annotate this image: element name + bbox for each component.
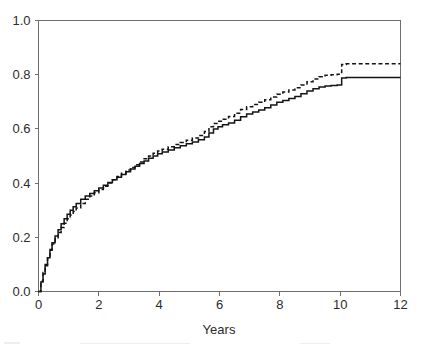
- x-tick-label: 12: [393, 297, 407, 312]
- y-tick-label: 0.0: [12, 284, 30, 299]
- y-tick-label: 1.0: [12, 13, 30, 28]
- chart-background: [0, 0, 421, 349]
- scan-artifact-right: [300, 343, 330, 344]
- x-tick-label: 6: [216, 297, 223, 312]
- y-tick-label: 0.6: [12, 121, 30, 136]
- scan-artifact-left: [4, 342, 20, 344]
- scan-artifact-mid: [80, 343, 190, 344]
- y-tick-label: 0.8: [12, 67, 30, 82]
- x-tick-label: 0: [35, 297, 42, 312]
- x-tick-label: 10: [333, 297, 347, 312]
- x-tick-label: 4: [156, 297, 163, 312]
- y-tick-label: 0.2: [12, 230, 30, 245]
- x-tick-label: 8: [276, 297, 283, 312]
- cumulative-incidence-chart: 0.00.20.40.60.81.0 024681012 Years: [0, 0, 421, 349]
- x-tick-label: 2: [95, 297, 102, 312]
- figure-container: 0.00.20.40.60.81.0 024681012 Years: [0, 0, 421, 349]
- x-axis-title: Years: [203, 322, 236, 337]
- y-tick-label: 0.4: [12, 176, 30, 191]
